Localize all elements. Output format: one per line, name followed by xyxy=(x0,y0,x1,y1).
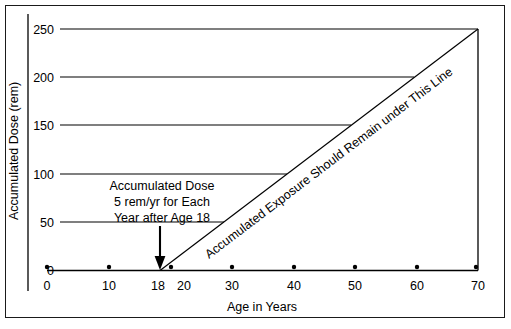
x-tick-label-0: 0 xyxy=(44,279,51,293)
y-tick-label-150: 150 xyxy=(33,119,54,133)
annotation-line-2: 5 rem/yr for Each xyxy=(114,195,210,209)
x-tick-dot-10 xyxy=(107,265,111,269)
x-tick-dot-30 xyxy=(230,265,234,269)
x-tick-dot-40 xyxy=(292,265,296,269)
x-tick-label-20: 20 xyxy=(177,279,191,293)
x-tick-label-50: 50 xyxy=(348,279,362,293)
y-tick-label-250: 250 xyxy=(33,23,54,37)
x-tick-dot-20 xyxy=(169,265,173,269)
annotation-line-1: Accumulated Dose xyxy=(110,179,215,193)
y-tick-label-50: 50 xyxy=(40,216,54,230)
x-tick-dot-60 xyxy=(415,265,419,269)
x-tick-dot-50 xyxy=(353,265,357,269)
exposure-limit-line-label: Accumulated Exposure Should Remain under… xyxy=(202,65,455,262)
x-tick-label-40: 40 xyxy=(287,279,301,293)
x-tick-dot-70 xyxy=(474,265,478,269)
chart-canvas: 250 200 150 100 50 0 0 10 18 20 30 40 50 xyxy=(0,0,511,329)
x-tick-label-10: 10 xyxy=(102,279,116,293)
x-tick-label-70: 70 xyxy=(471,279,485,293)
x-axis-title: Age in Years xyxy=(227,300,297,314)
exposure-limit-line xyxy=(160,29,478,271)
x-tick-dot-0 xyxy=(45,265,49,269)
figure-container: 250 200 150 100 50 0 0 10 18 20 30 40 50 xyxy=(0,0,511,329)
x-tick-label-30: 30 xyxy=(225,279,239,293)
y-axis-title: Accumulated Dose (rem) xyxy=(7,82,21,220)
x-tick-label-60: 60 xyxy=(410,279,424,293)
x-tick-label-18: 18 xyxy=(151,279,165,293)
annotation-line-3: Year after Age 18 xyxy=(114,211,210,225)
y-tick-label-200: 200 xyxy=(33,71,54,85)
y-tick-label-100: 100 xyxy=(33,168,54,182)
